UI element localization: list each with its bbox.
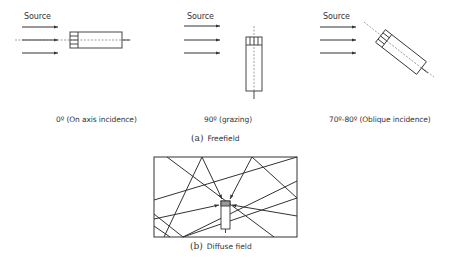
source-label: Source bbox=[323, 12, 350, 21]
source-label: Source bbox=[187, 12, 214, 21]
source-label: Source bbox=[24, 12, 51, 21]
subcaption-marker: (b) bbox=[190, 241, 203, 251]
oblique-panel bbox=[320, 22, 434, 79]
sound-wave-arrows bbox=[320, 27, 356, 53]
panel-caption-on-axis: 0º (On axis incidence) bbox=[56, 115, 137, 124]
subcaption-text: Diffuse field bbox=[207, 242, 252, 251]
subcaption-diffuse: (b)Diffuse field bbox=[190, 241, 252, 251]
grazing-panel bbox=[184, 26, 262, 99]
panel-caption-oblique: 70º-80º (Oblique incidence) bbox=[329, 115, 431, 124]
microphone-icon bbox=[221, 201, 230, 233]
microphone-icon bbox=[376, 30, 433, 80]
subcaption-text: Freefield bbox=[207, 134, 239, 143]
sound-wave-arrows bbox=[184, 26, 220, 53]
panel-caption-grazing: 90º (grazing) bbox=[204, 115, 252, 124]
subcaption-freefield: (a)Freefield bbox=[191, 133, 240, 143]
diffuse-field-diagram bbox=[154, 157, 297, 237]
subcaption-marker: (a) bbox=[191, 133, 203, 143]
figure-canvas bbox=[0, 0, 449, 262]
on-axis-panel bbox=[15, 27, 131, 53]
